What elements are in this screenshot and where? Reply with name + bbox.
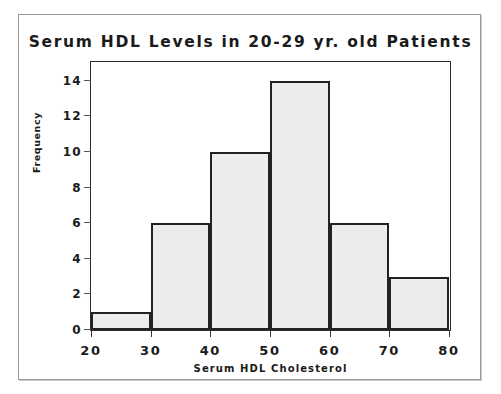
y-axis-title: Frequency <box>31 112 42 173</box>
y-axis-tick <box>84 115 91 116</box>
x-axis-tick-label: 60 <box>308 344 352 357</box>
y-axis-tick-label: 12 <box>44 110 82 122</box>
histogram-bar <box>210 152 270 330</box>
y-axis-tick-label: 0 <box>44 324 82 336</box>
x-axis-tick-label: 80 <box>427 344 471 357</box>
y-axis-tick <box>84 258 91 259</box>
y-axis-tick-label: 6 <box>44 217 82 229</box>
x-axis-tick <box>449 330 450 337</box>
x-axis-tick <box>330 330 331 337</box>
histogram-bar <box>270 81 330 330</box>
plot-area: 0246810121420304050607080 <box>90 61 451 331</box>
chart-title: Serum HDL Levels in 20-29 yr. old Patien… <box>19 33 482 51</box>
y-axis-tick-label: 8 <box>44 182 82 194</box>
x-axis-tick-label: 70 <box>367 344 411 357</box>
y-axis-tick-label: 14 <box>44 75 82 87</box>
histogram-bar <box>389 277 449 330</box>
x-axis-tick-label: 50 <box>248 344 292 357</box>
y-axis-tick <box>84 187 91 188</box>
x-axis-tick <box>210 330 211 337</box>
y-axis-tick <box>84 222 91 223</box>
x-axis-tick-label: 20 <box>69 344 113 357</box>
x-axis-tick <box>389 330 390 337</box>
y-axis-tick <box>84 151 91 152</box>
x-axis-tick <box>91 330 92 337</box>
figure-frame: Serum HDL Levels in 20-29 yr. old Patien… <box>18 14 481 380</box>
y-axis-tick-label: 4 <box>44 253 82 265</box>
histogram-bar <box>151 223 211 330</box>
x-axis-tick <box>270 330 271 337</box>
plot-inner: 0246810121420304050607080 <box>91 62 450 330</box>
x-axis-tick-label: 30 <box>129 344 173 357</box>
y-axis-tick-label: 2 <box>44 288 82 300</box>
y-axis-tick <box>84 329 91 330</box>
y-axis-tick <box>84 293 91 294</box>
histogram-bar <box>330 223 390 330</box>
histogram-bar <box>91 312 151 330</box>
y-axis-tick <box>84 80 91 81</box>
x-axis-title: Serum HDL Cholesterol <box>90 363 451 374</box>
x-axis-tick <box>151 330 152 337</box>
y-axis-tick-label: 10 <box>44 146 82 158</box>
x-axis-tick-label: 40 <box>188 344 232 357</box>
